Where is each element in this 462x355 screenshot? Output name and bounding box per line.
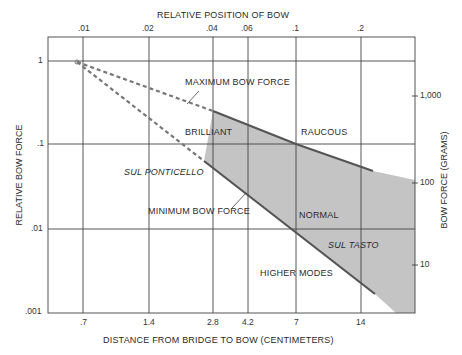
bottom-tick: .7 (80, 317, 87, 327)
max-force-label: MAXIMUM BOW FORCE (185, 77, 290, 87)
bottom-axis-title: DISTANCE FROM BRIDGE TO BOW (CENTIMETERS… (103, 335, 334, 345)
top-tick: .1 (292, 23, 299, 33)
left-tick: .001 (25, 306, 42, 316)
right-tick: 1,000 (420, 90, 441, 100)
bottom-tick: 2.8 (207, 317, 219, 327)
left-axis-title: RELATIVE BOW FORCE (14, 120, 24, 230)
top-tick: .01 (78, 23, 90, 33)
top-tick: .02 (142, 23, 154, 33)
top-tick: .2 (357, 23, 364, 33)
chart-canvas (0, 0, 462, 355)
right-tick: 10 (420, 259, 429, 269)
top-tick: .06 (241, 23, 253, 33)
region-sul-ponticello: SUL PONTICELLO (124, 167, 204, 177)
region-normal: NORMAL (299, 210, 339, 220)
top-tick: .04 (206, 23, 218, 33)
right-axis-title: BOW FORCE (GRAMS) (439, 125, 449, 235)
left-tick: 1 (38, 55, 43, 65)
region-higher-modes: HIGHER MODES (260, 268, 333, 278)
region-sul-tasto: SUL TASTO (328, 240, 379, 250)
bow-force-chart: RELATIVE POSITION OF BOW DISTANCE FROM B… (0, 0, 462, 355)
left-tick: .1 (37, 138, 44, 148)
bottom-tick: 1.4 (143, 317, 155, 327)
region-brilliant: BRILLIANT (185, 127, 232, 137)
bottom-tick: 7 (294, 317, 299, 327)
max-force-leader (187, 91, 199, 104)
left-tick: .01 (31, 223, 43, 233)
bottom-tick: 14 (356, 317, 365, 327)
top-axis-title: RELATIVE POSITION OF BOW (157, 10, 289, 20)
region-raucous: RAUCOUS (301, 127, 347, 137)
min-force-label: MINIMUM BOW FORCE (148, 206, 250, 216)
bottom-tick: 4.2 (242, 317, 254, 327)
right-tick: 100 (420, 177, 434, 187)
